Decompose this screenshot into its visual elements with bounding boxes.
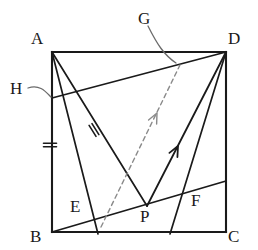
segment-A-P [52, 52, 147, 206]
point-label-F: F [191, 192, 200, 209]
vertex-label-C: C [228, 228, 239, 245]
segment-H-D [52, 52, 226, 98]
leader-line-G [148, 26, 176, 63]
ray-E-to-G-dashed [101, 65, 180, 227]
point-label-G: G [138, 10, 150, 27]
vertex-label-B: B [30, 228, 41, 245]
arrowed-rays [101, 52, 226, 227]
leader-line-H [28, 87, 51, 97]
point-label-P: P [140, 208, 149, 225]
label-leader-lines [28, 26, 176, 97]
point-label-E: E [70, 198, 80, 215]
point-label-H: H [10, 80, 22, 97]
vertex-label-D: D [228, 30, 240, 47]
vertex-label-A: A [31, 30, 43, 47]
ray-E-to-G-dashed-arrowhead [149, 113, 157, 124]
tick-double-on-AB [44, 143, 57, 146]
